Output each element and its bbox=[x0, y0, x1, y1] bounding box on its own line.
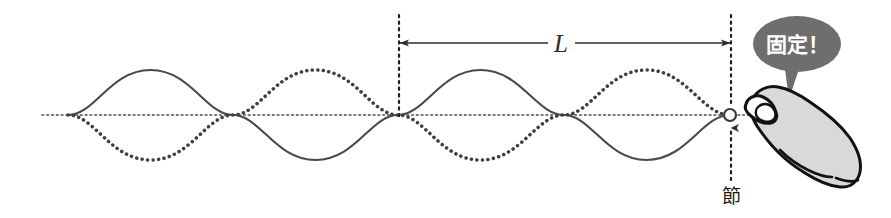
hand-index-finger bbox=[756, 104, 776, 122]
node-label: 節 bbox=[722, 185, 741, 207]
hand-illustration bbox=[745, 87, 860, 188]
fixed-end-node-marker bbox=[724, 109, 736, 121]
length-label: L bbox=[553, 30, 568, 57]
speech-bubble-label: 固定！ bbox=[766, 33, 829, 57]
figure-canvas: L 節 固定！ bbox=[0, 0, 891, 218]
physics-figure-standing-wave: L 節 固定！ bbox=[0, 0, 891, 218]
